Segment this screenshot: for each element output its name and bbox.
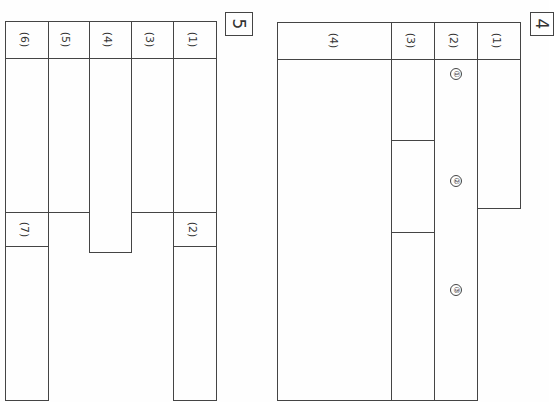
s4-answer-q3-part2[interactable] [391,140,435,233]
section-4-number: 4 [532,19,552,30]
s4-answer-q3-part1[interactable] [391,59,435,141]
s5-answer-q7[interactable] [5,246,49,401]
section-5-tag: 5 [225,12,253,36]
section-5-number: 5 [229,19,249,30]
s4-answer-q4[interactable] [277,59,392,401]
s5-answer-q5[interactable] [48,58,90,213]
s5-label-q1: (1) [187,32,198,48]
s5-answer-q1[interactable] [173,58,217,213]
s5-answer-q2[interactable] [173,246,217,401]
section-4-tag: 4 [530,12,554,36]
s5-label-q4: (4) [102,32,113,48]
s4-marker-1: ① [450,68,462,80]
s4-answer-q1[interactable] [477,59,521,209]
s4-answer-q2[interactable] [434,59,478,401]
s5-label-q6: (6) [19,32,30,48]
s5-label-q2: (2) [187,222,198,238]
s4-answer-q3-part3[interactable] [391,232,435,401]
s4-marker-3: ③ [450,284,462,296]
s5-label-q5: (5) [60,32,71,48]
s4-label-q2: (2) [448,33,459,49]
s4-label-q4: (4) [328,33,339,49]
s4-label-q3: (3) [405,33,416,49]
s4-marker-2: ② [450,175,462,187]
s5-label-q3: (3) [144,32,155,48]
s4-label-q1: (1) [491,33,502,49]
s5-answer-q4[interactable] [89,58,132,253]
s5-answer-q3[interactable] [131,58,174,213]
s5-answer-q6[interactable] [5,58,49,213]
s5-label-q7: (7) [19,222,30,238]
